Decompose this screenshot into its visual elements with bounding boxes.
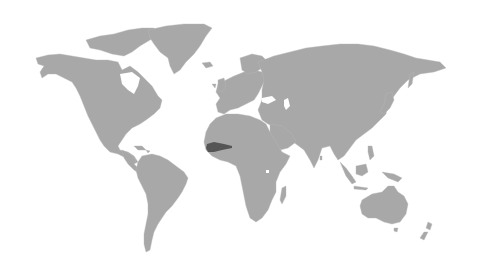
arctic-islands[interactable] bbox=[86, 28, 158, 56]
europe[interactable] bbox=[216, 70, 266, 114]
greenland[interactable] bbox=[148, 24, 212, 74]
south-america[interactable] bbox=[136, 154, 188, 252]
new-zealand[interactable] bbox=[420, 222, 432, 240]
iceland[interactable] bbox=[202, 62, 213, 68]
world-map-svg bbox=[0, 0, 480, 274]
borneo[interactable] bbox=[356, 164, 368, 176]
new-guinea[interactable] bbox=[382, 172, 402, 182]
madagascar[interactable] bbox=[280, 186, 286, 204]
sri-lanka[interactable] bbox=[320, 156, 322, 160]
sumatra[interactable] bbox=[340, 162, 356, 184]
tasmania[interactable] bbox=[394, 228, 398, 232]
lake-victoria bbox=[266, 170, 269, 173]
world-map bbox=[0, 0, 480, 274]
philippines[interactable] bbox=[368, 146, 374, 160]
land-group bbox=[36, 24, 446, 252]
java[interactable] bbox=[354, 186, 368, 190]
australia[interactable] bbox=[360, 186, 408, 224]
caribbean[interactable] bbox=[134, 146, 150, 153]
